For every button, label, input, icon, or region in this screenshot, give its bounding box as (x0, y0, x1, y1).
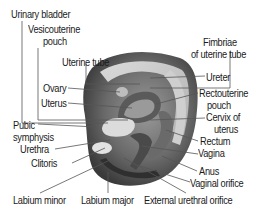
label-pubic-symphysis: Pubic (13, 119, 35, 131)
label-rectum: Rectum (200, 135, 230, 147)
label-fimbriae: Fimbriae (203, 36, 237, 48)
label-vagina: Vagina (198, 147, 225, 159)
label-urethra: Urethra (20, 143, 49, 155)
label-vaginal-orifice: Vaginal orifice (190, 177, 243, 189)
label-urinary-bladder: Urinary bladder (11, 8, 70, 20)
label-vesicouterine-pouch: Vesicouterine (28, 23, 80, 35)
label-uterus: Uterus (41, 97, 67, 109)
label-clitoris: Clitoris (31, 157, 57, 169)
label-anus: Anus (199, 165, 219, 177)
label-labium-minor: Labium minor (13, 194, 66, 206)
label-ovary: Ovary (43, 82, 66, 94)
label-rectouterine-pouch: Rectouterine (199, 87, 248, 99)
label-rectouterine-pouch-2: pouch (207, 99, 231, 111)
anatomy-diagram: Urinary bladder Vesicouterine pouch Uter… (0, 0, 257, 211)
label-labium-major: Labium major (81, 194, 134, 206)
label-cervix-2: uterus (214, 123, 238, 135)
label-ureter: Ureter (206, 71, 230, 83)
label-external-urethral-orifice: External urethral orifice (144, 194, 232, 206)
label-fimbriae-2: of uterine tube (191, 48, 246, 60)
label-pubic-symphysis-2: symphysis (13, 131, 54, 143)
label-vesicouterine-pouch-2: pouch (43, 35, 67, 47)
label-uterine-tube: Uterine tube (62, 56, 109, 68)
label-cervix: Cervix of (206, 111, 240, 123)
